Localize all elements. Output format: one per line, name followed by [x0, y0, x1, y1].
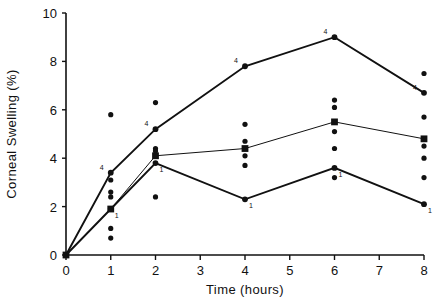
series-marker-upper — [332, 34, 338, 40]
series-markers — [63, 34, 428, 258]
point-label-upper: 4 — [145, 120, 149, 127]
series-marker-lower — [153, 160, 159, 166]
series-marker-lower — [332, 165, 338, 171]
x-axis: 012345678 — [62, 255, 427, 278]
y-tick-label: 2 — [50, 200, 57, 215]
series-marker-upper — [242, 63, 248, 69]
scatter-dot — [332, 105, 337, 110]
chart-figure: 0246810 012345678 4444411111 Time (hours… — [0, 0, 438, 302]
y-axis: 0246810 — [43, 6, 66, 263]
y-axis-title: Corneal Swelling (%) — [4, 69, 19, 198]
scatter-dot — [108, 235, 113, 240]
x-tick-label: 6 — [331, 263, 338, 278]
mean-marker — [63, 252, 70, 259]
point-label-lower: 1 — [115, 212, 119, 219]
mean-marker — [152, 152, 159, 159]
y-tick-label: 10 — [43, 6, 57, 21]
x-tick-label: 0 — [62, 263, 69, 278]
series-marker-upper — [153, 126, 159, 132]
scatter-dot — [108, 226, 113, 231]
scatter-dot — [242, 122, 247, 127]
scatter-dot — [421, 114, 426, 119]
series-marker-upper — [421, 90, 427, 96]
scatter-dot — [332, 129, 337, 134]
scatter-dot — [332, 175, 337, 180]
point-labels: 4444411111 — [100, 28, 432, 219]
scatter-dot — [242, 163, 247, 168]
point-label-upper: 4 — [234, 57, 238, 64]
series-marker-lower — [421, 201, 427, 207]
y-tick-label: 6 — [50, 103, 57, 118]
scatter-dot — [108, 189, 113, 194]
x-tick-label: 3 — [197, 263, 204, 278]
series-line-lower — [66, 163, 424, 255]
mean-marker — [421, 135, 428, 142]
scatter-dot — [153, 194, 158, 199]
scatter-dot — [108, 112, 113, 117]
mean-marker — [331, 119, 338, 126]
scatter-dot — [242, 153, 247, 158]
scatter-dot — [332, 98, 337, 103]
y-tick-label: 4 — [50, 151, 57, 166]
scatter-dot — [421, 144, 426, 149]
x-axis-title: Time (hours) — [206, 282, 284, 297]
point-label-upper: 4 — [100, 164, 104, 171]
x-tick-label: 7 — [376, 263, 383, 278]
scatter-dot — [153, 100, 158, 105]
x-tick-label: 5 — [286, 263, 293, 278]
point-label-lower: 1 — [249, 202, 253, 209]
point-label-lower: 1 — [428, 207, 432, 214]
point-label-upper: 4 — [324, 28, 328, 35]
point-label-lower: 1 — [160, 166, 164, 173]
scatter-dot — [108, 177, 113, 182]
x-tick-label: 4 — [241, 263, 248, 278]
scatter-dot — [421, 71, 426, 76]
series-marker-upper — [108, 170, 114, 176]
corneal-swelling-line-chart: 0246810 012345678 4444411111 Time (hours… — [0, 0, 438, 302]
series-marker-lower — [242, 196, 248, 202]
x-tick-label: 8 — [420, 263, 427, 278]
scatter-dot — [242, 139, 247, 144]
point-label-upper: 4 — [413, 84, 417, 91]
scatter-dot — [421, 156, 426, 161]
point-label-lower: 1 — [339, 171, 343, 178]
scatter-dot — [421, 175, 426, 180]
x-tick-label: 2 — [152, 263, 159, 278]
scatter-dot — [332, 146, 337, 151]
series-marker-lower — [108, 206, 114, 212]
mean-marker — [242, 145, 249, 152]
y-tick-label: 0 — [50, 248, 57, 263]
y-tick-label: 8 — [50, 54, 57, 69]
scatter-dot — [108, 194, 113, 199]
x-tick-label: 1 — [107, 263, 114, 278]
